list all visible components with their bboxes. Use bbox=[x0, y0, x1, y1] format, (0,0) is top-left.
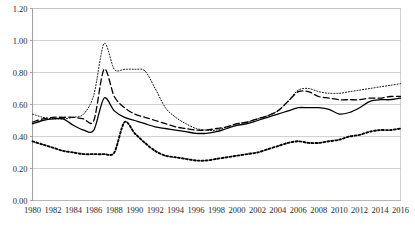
x-tick-label: 2006 bbox=[290, 205, 307, 215]
x-tick-label: 1984 bbox=[65, 205, 83, 215]
x-axis-tick-labels: 1980198219841986198819901992199419961998… bbox=[24, 205, 409, 215]
x-tick-label: 1986 bbox=[85, 205, 102, 215]
series-fine-dotted bbox=[33, 43, 401, 130]
y-tick-label: 0.80 bbox=[13, 68, 28, 78]
series-thick-dotted bbox=[33, 122, 401, 161]
x-tick-label: 1980 bbox=[24, 205, 41, 215]
y-tick-label: 1.00 bbox=[13, 36, 28, 46]
x-tick-label: 1982 bbox=[44, 205, 61, 215]
series-group bbox=[33, 43, 401, 160]
y-tick-label: 0.60 bbox=[13, 100, 28, 110]
y-tick-label: 1.20 bbox=[13, 4, 28, 14]
series-dashed bbox=[33, 69, 401, 130]
x-tick-label: 2000 bbox=[228, 205, 245, 215]
x-tick-label: 2012 bbox=[351, 205, 368, 215]
x-tick-label: 2002 bbox=[249, 205, 266, 215]
x-tick-label: 1996 bbox=[188, 205, 205, 215]
gridlines-group bbox=[33, 9, 401, 201]
x-tick-label: 2014 bbox=[372, 205, 390, 215]
x-tick-label: 2004 bbox=[269, 205, 287, 215]
x-tick-label: 1988 bbox=[106, 205, 123, 215]
x-tick-label: 2008 bbox=[310, 205, 327, 215]
chart-canvas: 0.000.200.400.600.801.001.20 19801982198… bbox=[0, 0, 415, 237]
y-tick-label: 0.40 bbox=[13, 132, 28, 142]
line-chart: 0.000.200.400.600.801.001.20 19801982198… bbox=[0, 0, 415, 237]
x-tick-label: 1992 bbox=[147, 205, 164, 215]
x-tick-label: 1994 bbox=[167, 205, 185, 215]
y-tick-label: 0.20 bbox=[13, 164, 28, 174]
x-tick-label: 1990 bbox=[126, 205, 143, 215]
x-tick-label: 2010 bbox=[331, 205, 348, 215]
y-axis-tick-labels: 0.000.200.400.600.801.001.20 bbox=[13, 4, 33, 206]
x-tick-label: 2016 bbox=[392, 205, 409, 215]
x-tick-label: 1998 bbox=[208, 205, 225, 215]
